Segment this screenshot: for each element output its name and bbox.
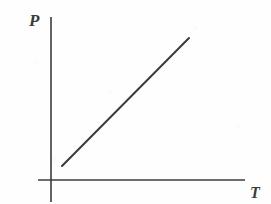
x-axis-label: T: [250, 185, 260, 201]
y-axis-label: P: [29, 12, 39, 29]
pressure-temperature-figure: P T: [0, 0, 271, 204]
plot-area: [0, 0, 271, 204]
data-line-p-vs-t: [62, 38, 189, 166]
